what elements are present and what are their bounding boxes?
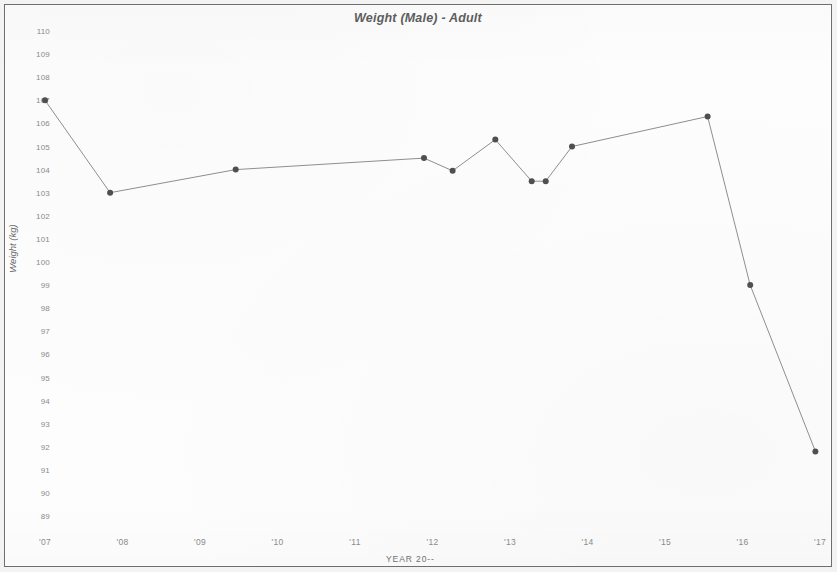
series-line-weight bbox=[45, 100, 815, 451]
data-point-marker bbox=[747, 282, 753, 288]
chart-plot-frame: Weight (Male) - Adult Weight (kg) YEAR 2… bbox=[4, 4, 832, 567]
data-point-marker bbox=[450, 168, 456, 174]
data-point-marker bbox=[812, 448, 818, 454]
series-markers-weight bbox=[42, 97, 818, 454]
data-point-marker bbox=[421, 155, 427, 161]
chart-root: Weight (Male) - Adult Weight (kg) YEAR 2… bbox=[0, 0, 837, 572]
data-point-marker bbox=[529, 178, 535, 184]
line-series-plot bbox=[5, 5, 837, 572]
data-point-marker bbox=[233, 167, 239, 173]
data-point-marker bbox=[705, 114, 711, 120]
data-point-marker bbox=[107, 190, 113, 196]
data-point-marker bbox=[42, 97, 48, 103]
data-point-marker bbox=[569, 144, 575, 150]
data-point-marker bbox=[492, 137, 498, 143]
data-point-marker bbox=[543, 178, 549, 184]
